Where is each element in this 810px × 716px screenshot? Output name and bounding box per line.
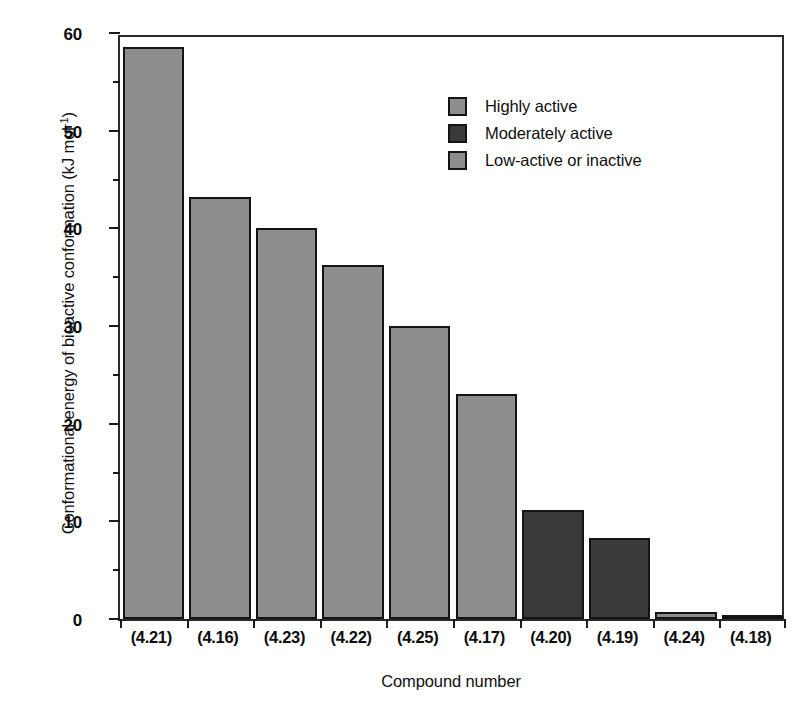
x-axis-tick [386,619,388,628]
y-axis-major-tick [109,423,120,425]
y-axis-tick-label: 0 [48,611,82,631]
y-axis-minor-tick [113,472,120,474]
y-axis-major-tick [109,227,120,229]
x-axis-tick [719,619,721,628]
x-axis-tick [253,619,255,628]
y-axis-tick-label: 40 [48,220,82,240]
y-axis-tick-label: 10 [48,513,82,533]
x-axis-tick [120,619,122,628]
x-axis-tick [453,619,455,628]
bar-4-17 [456,394,518,619]
bar-chart-figure: Conformational energy of bioactive confo… [0,0,810,716]
x-axis-tick-label: (4.17) [464,628,505,647]
bar-4-22 [322,265,384,619]
x-axis-tick-label: (4.23) [264,628,305,647]
y-axis-minor-tick [113,81,120,83]
x-axis-tick-label: (4.20) [530,628,571,647]
x-axis-tick [586,619,588,628]
legend-swatch-icon [448,97,467,116]
x-axis-tick [784,619,786,628]
bar-4-23 [256,228,318,619]
x-axis-tick-label: (4.19) [597,628,638,647]
x-axis-tick-label: (4.25) [397,628,438,647]
x-axis-tick-label: (4.22) [330,628,371,647]
y-axis-tick-label: 50 [48,123,82,143]
legend-item: Low-active or inactive [448,149,641,171]
x-axis-tick [320,619,322,628]
legend: Highly activeModerately activeLow-active… [448,95,641,171]
x-axis-tick [653,619,655,628]
y-axis-major-tick [109,32,120,34]
y-axis-tick-label: 60 [48,25,82,45]
legend-label: Moderately active [485,124,613,143]
bar-4-25 [389,326,451,619]
x-axis-tick [520,619,522,628]
y-axis-major-tick [109,325,120,327]
bar-4-16 [189,197,251,619]
x-axis-tick-labels: (4.21)(4.16)(4.23)(4.22)(4.25)(4.17)(4.2… [118,628,784,654]
y-axis-major-tick [109,618,120,620]
bar-4-19 [589,538,651,619]
y-axis-minor-tick [113,276,120,278]
legend-item: Highly active [448,95,641,117]
legend-item: Moderately active [448,122,641,144]
x-axis-tick-label: (4.18) [730,628,771,647]
legend-swatch-icon [448,151,467,170]
legend-label: Low-active or inactive [485,151,641,170]
y-axis-tick-labels: 0102030405060 [46,0,82,716]
y-axis-tick-label: 30 [48,318,82,338]
x-axis-tick-label: (4.24) [663,628,704,647]
x-axis-title: Compound number [118,672,784,691]
y-axis-minor-tick [113,569,120,571]
x-axis-tick-label: (4.21) [131,628,172,647]
y-axis-tick-label: 20 [48,416,82,436]
legend-swatch-icon [448,124,467,143]
y-axis-minor-tick [113,374,120,376]
bar-4-21 [123,47,185,619]
bar-4-20 [522,510,584,619]
x-axis-tick-label: (4.16) [197,628,238,647]
legend-label: Highly active [485,97,577,116]
y-axis-major-tick [109,130,120,132]
y-axis-major-tick [109,520,120,522]
y-axis-minor-tick [113,179,120,181]
bar-4-24 [655,612,717,619]
x-axis-tick [187,619,189,628]
bar-4-18 [722,615,784,619]
